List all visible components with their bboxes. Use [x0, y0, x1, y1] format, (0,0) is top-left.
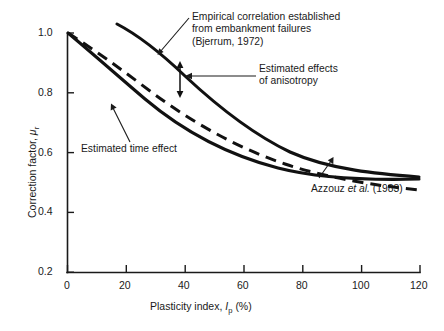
x-tick-label-2: 20	[119, 279, 131, 291]
curve-azzouz	[68, 33, 419, 190]
annotation-anisotropy: Estimated effects of anisotropy	[259, 63, 338, 88]
y-axis-title-main: Correction factor,	[26, 138, 38, 218]
y-axis-title: Correction factor, μr	[26, 127, 41, 218]
y-tick-label-1: 1.0	[38, 26, 53, 38]
x-tick-marks	[68, 265, 421, 273]
x-axis-title-main: Plasticity index,	[150, 300, 222, 312]
x-tick-label-6: 100	[352, 279, 370, 291]
annotation-time-effect-line1: Estimated time effect	[81, 143, 177, 155]
chart-figure: 1.0 0.8 0.6 0.4 0.2 0 20 40 60 80 100 12…	[0, 0, 444, 331]
annotation-anisotropy-line1: Estimated effects	[259, 63, 338, 75]
annotation-bjerrum-line3: (Bjerrum, 1972)	[192, 36, 340, 48]
x-tick-label-1: 0	[64, 279, 70, 291]
leader-time-effect	[111, 104, 130, 143]
y-tick-marks	[68, 33, 75, 272]
annotation-azzouz-italic: et al.	[348, 183, 370, 194]
y-tick-label-2: 0.8	[38, 86, 53, 98]
x-tick-label-5: 80	[296, 279, 308, 291]
x-axis-unit: (%)	[235, 300, 251, 312]
x-axis-subscript: p	[228, 306, 232, 315]
x-tick-label-4: 60	[237, 279, 249, 291]
annotation-bjerrum: Empirical correlation established from e…	[192, 11, 340, 48]
x-axis-title: Plasticity index, Ip (%)	[150, 300, 252, 315]
x-tick-label-7: 120	[410, 279, 428, 291]
leader-anisotropy	[185, 73, 256, 80]
annotation-bjerrum-line1: Empirical correlation established	[192, 11, 340, 23]
annotation-azzouz: Azzouz et al. (1983)	[311, 183, 403, 195]
anisotropy-arrow	[177, 61, 184, 98]
annotation-azzouz-pre: Azzouz	[311, 183, 348, 194]
annotation-anisotropy-line2: of anisotropy	[259, 75, 338, 87]
x-tick-label-3: 40	[178, 279, 190, 291]
y-tick-label-5: 0.2	[38, 265, 53, 277]
annotation-time-effect: Estimated time effect	[81, 143, 177, 155]
leader-bjerrum	[158, 18, 190, 55]
annotation-azzouz-post: (1983)	[370, 183, 403, 194]
y-axis-symbol: μ	[26, 129, 38, 135]
annotation-bjerrum-line2: from embankment failures	[192, 23, 340, 35]
y-axis-subscript: r	[32, 127, 41, 130]
curve-time-effect	[68, 33, 419, 179]
